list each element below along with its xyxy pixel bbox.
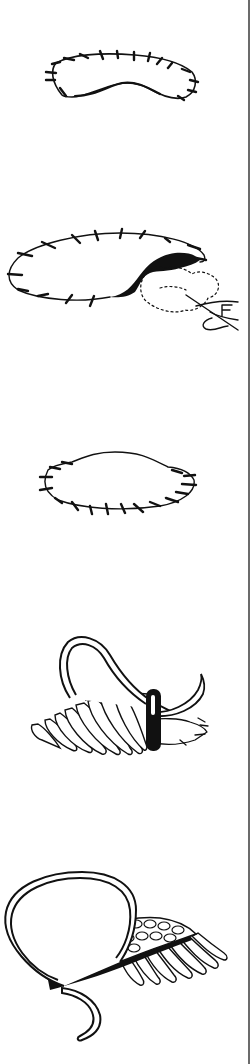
tacking-stitches [46,51,198,100]
figure-3-raised-padding [0,400,248,600]
figure-1-kidney-outline [0,0,248,200]
figure-2-padding-insertion [0,200,248,400]
figure-5-completed-satin-stitch [0,830,248,1064]
padding-inner-dots [160,287,186,290]
padding-dotted-outline [141,267,219,312]
right-border-line [248,0,250,1064]
figure-4-satin-stitch-in-progress [0,600,248,830]
lower-edge-thread [75,83,160,96]
thread-tail [62,988,100,1041]
tacking-stitches [40,462,196,514]
needle-eye-hole [151,695,155,715]
shaded-fold [110,253,200,298]
